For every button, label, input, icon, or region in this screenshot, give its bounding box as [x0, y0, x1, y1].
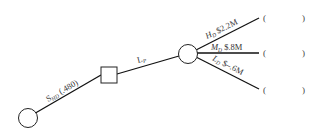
- branch-line-l: [117, 56, 179, 74]
- root-chance-node: [19, 109, 38, 128]
- blank-close-lo: ): [302, 85, 305, 95]
- decision-tree-diagram: SHD (.480) LP HD $2.2M MD $.8M LD $–.6M …: [0, 0, 323, 137]
- branch-label-m: MD $.8M: [210, 42, 243, 53]
- decision-node: [101, 67, 117, 83]
- blank-close-h: ): [302, 13, 305, 23]
- blank-open-m: (: [263, 48, 266, 58]
- blank-close-m: ): [302, 48, 305, 58]
- blank-open-h: (: [263, 13, 266, 23]
- blank-open-lo: (: [263, 85, 266, 95]
- branch-label-l: LP: [136, 53, 148, 66]
- outcome-chance-node: [179, 45, 198, 64]
